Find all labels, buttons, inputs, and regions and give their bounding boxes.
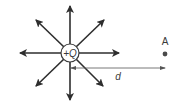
field-arrow-up-left xyxy=(36,20,64,47)
field-arrow-down-right xyxy=(76,59,103,86)
electric-field-diagram: +Q d A xyxy=(0,0,185,106)
distance-label: d xyxy=(115,71,121,82)
point-label: A xyxy=(162,36,169,47)
point-a-dot xyxy=(163,52,168,57)
field-arrow-up-right xyxy=(76,20,104,47)
field-arrow-down-left xyxy=(36,59,64,86)
charge-label: +Q xyxy=(63,48,77,59)
